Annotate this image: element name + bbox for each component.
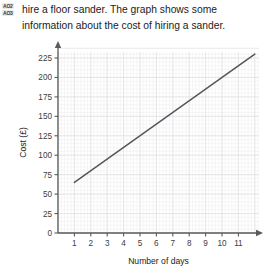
worksheet-question-panel: AO2 AO3 hire a floor sander. The graph s… [0,0,263,280]
x-tick-label: 3 [105,239,110,248]
x-tick-label: 6 [154,239,159,248]
x-tick-label: 2 [89,239,94,248]
y-tick-label: 200 [38,73,52,82]
y-tick-label: 125 [38,132,52,141]
x-tick-label: 8 [187,239,192,248]
y-tick-label: 25 [43,210,53,219]
x-tick-label: 5 [138,239,143,248]
x-tick-label: 9 [203,239,208,248]
x-axis-title: Number of days [128,256,189,266]
cost-vs-days-chart: 0255075100125150175200225 1234567891011 … [0,36,263,280]
x-tick-label: 11 [234,239,243,248]
x-axis-tick-labels: 1234567891011 [72,239,243,248]
x-tick-label: 1 [72,239,77,248]
question-text-line-1: hire a floor sander. The graph shows som… [22,2,260,18]
y-tick-label: 100 [38,151,52,160]
ao-marker-chip: AO2 [2,3,14,9]
y-axis-title: Cost (£) [18,127,28,158]
x-tick-label: 4 [121,239,126,248]
y-axis-tick-labels: 0255075100125150175200225 [38,54,52,238]
y-tick-label: 50 [43,190,53,199]
minor-gridlines [58,52,259,233]
question-text: hire a floor sander. The graph shows som… [22,2,260,34]
question-text-line-2: information about the cost of hiring a s… [22,18,260,34]
assessment-objective-markers: AO2 AO3 [2,3,18,16]
y-tick-label: 175 [38,93,52,102]
x-tick-label: 7 [171,239,176,248]
y-tick-label: 75 [43,171,53,180]
y-tick-label: 0 [47,229,52,238]
ao-marker-chip: AO3 [2,10,14,16]
y-tick-label: 150 [38,112,52,121]
y-tick-label: 225 [38,54,52,63]
x-tick-label: 10 [217,239,227,248]
chart-svg: 0255075100125150175200225 1234567891011 … [0,36,263,280]
